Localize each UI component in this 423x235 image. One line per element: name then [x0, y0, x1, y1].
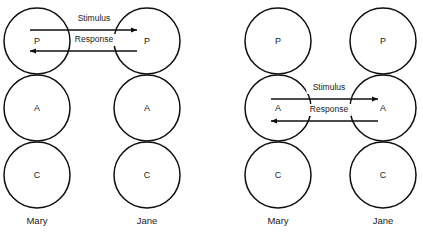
arrow-label-response: Response — [310, 104, 349, 114]
ta-diagram-canvas: PACMaryPACJaneStimulusResponsePACMaryPAC… — [0, 0, 423, 235]
ego-state-letter-c: C — [34, 170, 41, 180]
diagram-layer: PACMaryPACJaneStimulusResponsePACMaryPAC… — [4, 8, 416, 226]
arrow-label-response: Response — [75, 34, 114, 44]
ego-state-letter-c: C — [144, 170, 151, 180]
ego-diagram-parent-to-parent: PACMaryPACJaneStimulusResponse — [4, 8, 180, 226]
ego-state-letter-c: C — [275, 170, 282, 180]
person-column-jane: PACJane — [114, 8, 180, 226]
arrow-label-stimulus: Stimulus — [313, 82, 346, 92]
transactional-analysis-figure: PACMaryPACJaneStimulusResponsePACMaryPAC… — [0, 0, 423, 235]
person-name-label: Jane — [137, 215, 158, 226]
person-name-label: Mary — [26, 215, 47, 226]
ego-state-letter-c: C — [380, 170, 387, 180]
person-name-label: Mary — [267, 215, 288, 226]
person-column-mary: PACMary — [245, 8, 311, 226]
person-column-mary: PACMary — [4, 8, 70, 226]
ego-state-letter-p: P — [144, 36, 150, 46]
ego-state-letter-a: A — [380, 103, 386, 113]
person-column-jane: PACJane — [350, 8, 416, 226]
ego-state-letter-p: P — [380, 36, 386, 46]
ego-state-letter-p: P — [34, 36, 40, 46]
ego-diagram-adult-to-adult: PACMaryPACJaneStimulusResponse — [245, 8, 416, 226]
person-name-label: Jane — [373, 215, 394, 226]
arrow-label-stimulus: Stimulus — [78, 13, 111, 23]
ego-state-letter-p: P — [275, 36, 281, 46]
ego-state-letter-a: A — [34, 103, 40, 113]
ego-state-letter-a: A — [144, 103, 150, 113]
ego-state-letter-a: A — [275, 103, 281, 113]
